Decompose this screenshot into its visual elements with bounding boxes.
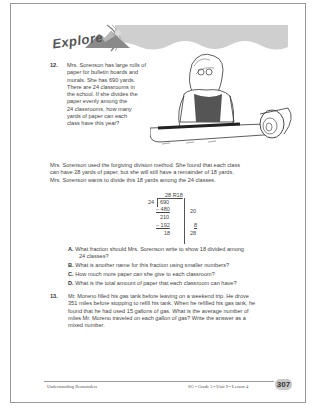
step1-subtract: – 480 [156,206,170,212]
footer-lesson-title: Understanding Remainders [47,384,97,389]
final-remainder: 18 [164,230,170,236]
problem-13-text: Mr. Moreno filled his gas tank before le… [68,293,300,329]
problem-13-number: 13. [50,293,58,300]
dividend: 690 [160,199,169,205]
subquestion-d: D. What is the total amount of paper tha… [68,280,298,287]
footer-divider [44,381,274,382]
problem-12-explanation: Mrs. Sorenson used the forgiving divisio… [50,162,300,184]
woman-paper-roll-illustration [150,50,295,150]
step1-remainder: 210 [160,214,169,220]
partial-sum: 28 [190,230,196,236]
page-number: 307 [275,379,292,390]
step1-partial: 20 [190,208,196,214]
footer-course-info: SG • Grade 5 • Unit 9 • Lesson 4 [188,384,248,389]
partial-quotient-line [184,198,185,244]
subquestion-b: B. What is another name for this fractio… [68,262,298,269]
divisor: 24 [148,199,154,205]
subquestion-c: C. How much more paper can she give to e… [68,271,298,278]
step2-partial: 8 [194,222,197,228]
step2-subtract: – 192 [156,222,170,228]
banner-wave [115,25,288,51]
subquestion-a: A. What fraction should Mrs. Sorenson wr… [68,246,298,261]
problem-12-number: 12. [50,62,58,69]
